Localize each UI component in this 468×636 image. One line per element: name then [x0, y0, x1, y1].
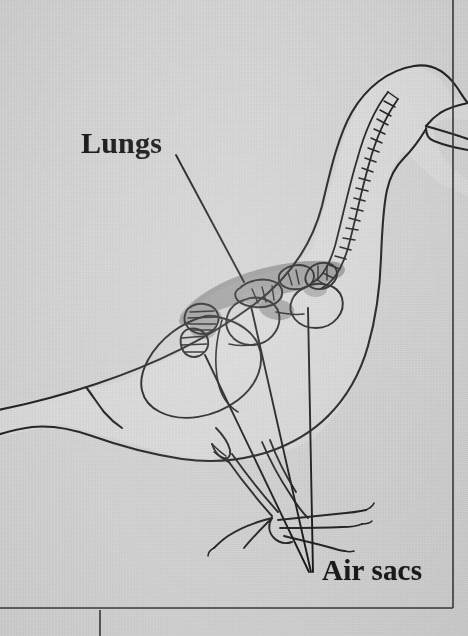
- left-foot-toes: [214, 518, 272, 548]
- lungs-leader-line: [176, 155, 244, 282]
- claw-tips: [208, 503, 374, 556]
- lungs-label: Lungs: [81, 126, 162, 160]
- left-tarsus: [226, 458, 272, 516]
- right-foot-toe-a: [278, 510, 366, 520]
- bird-anatomy-drawing: [0, 0, 468, 636]
- air-sacs-label: Air sacs: [322, 554, 422, 587]
- right-foot-toe-b: [280, 524, 362, 528]
- figure-page: Lungs Air sacs: [0, 0, 468, 636]
